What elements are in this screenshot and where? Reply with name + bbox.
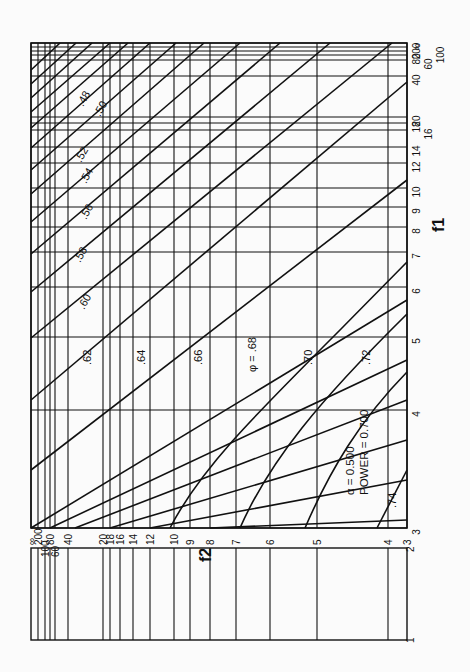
f2-tick-label: 4	[383, 539, 394, 545]
label-60: .60	[75, 292, 93, 311]
phi-curve	[31, 43, 204, 194]
label-64: .64	[135, 350, 147, 365]
f1-tick-label: 3	[411, 529, 422, 535]
label-62: .62	[81, 350, 93, 365]
f1-tick-label: 100	[435, 46, 446, 63]
f1-axis-ticks: 3456789101214161820406080100200∞	[411, 42, 446, 535]
f2-strip	[31, 548, 407, 640]
f2-tick-label: 20	[98, 533, 109, 545]
f1-tick-label: 12	[411, 161, 422, 173]
f1-axis-title: f1	[430, 218, 447, 232]
f2-tick-label: ∞	[26, 538, 37, 545]
f1-tick-label: 14	[411, 145, 422, 157]
label-70: .70	[302, 350, 314, 365]
label-58: .58	[71, 245, 89, 264]
phi-curve	[31, 180, 407, 470]
strip-tick-2: 2	[405, 546, 416, 552]
f2-tick-label: 10	[169, 533, 180, 545]
f1-tick-label: 20	[411, 115, 422, 127]
f2-tick-label: 9	[185, 539, 196, 545]
label-48: .48	[74, 89, 92, 108]
f2-tick-label: 6	[265, 539, 276, 545]
strip-tick-1: 1	[405, 637, 416, 643]
f2-tick-label: 40	[63, 533, 74, 545]
phi-curve	[50, 360, 407, 528]
f1-tick-label: 9	[411, 208, 422, 214]
label-72: .72	[360, 350, 372, 365]
f2-axis-title: f2	[197, 548, 214, 562]
f1-tick-label: 7	[411, 253, 422, 259]
f1-tick-label: 5	[411, 338, 422, 344]
f2-tick-label: 5	[312, 539, 323, 545]
f1-tick-label: 40	[411, 74, 422, 86]
f1-tick-label: 4	[411, 411, 422, 417]
power-label: POWER = 0.700	[358, 410, 370, 495]
label-56: .56	[77, 202, 95, 221]
f1-tick-label: 10	[411, 186, 422, 198]
phi-curve	[170, 262, 407, 528]
f1-tick-label: 6	[411, 288, 422, 294]
f2-axis-ticks: 3456789101214161820406080100200∞	[26, 528, 413, 557]
f2-tick-label: 7	[231, 539, 242, 545]
f2-tick-label: 3	[402, 539, 413, 545]
f1-tick-label: 16	[423, 128, 434, 140]
alpha-label: α = 0.500	[344, 446, 356, 495]
f1-tick-label: ∞	[411, 43, 422, 50]
f2-tick-label: 16	[115, 533, 126, 545]
f1-tick-label: 8	[411, 228, 422, 234]
label-68: φ = .68	[246, 337, 258, 372]
label-66: .66	[192, 350, 204, 365]
label-74: .74	[386, 493, 398, 508]
f2-tick-label: 12	[145, 533, 156, 545]
f2-tick-label: 8	[205, 539, 216, 545]
power-chart: .48 .50 .52 .54 .56 .58 .60 .62 .64 .66 …	[0, 0, 470, 672]
f1-tick-label: 60	[423, 58, 434, 70]
label-52: .52	[72, 145, 90, 164]
f2-tick-label: 14	[128, 533, 139, 545]
